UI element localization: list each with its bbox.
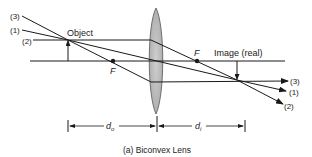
focal-point-left: [111, 59, 115, 63]
object-label: Object: [67, 28, 94, 38]
ray-1-label-left: (1): [10, 26, 20, 35]
ray-1-label-right: (1): [289, 88, 299, 97]
image-label: Image (real): [214, 48, 263, 58]
focal-point-right: [195, 59, 199, 63]
d-object-label: do: [106, 121, 115, 132]
biconvex-lens-diagram: Object Image (real) F F (3) (1) (2) (3) …: [0, 0, 312, 157]
ray-2-label-left: (2): [22, 37, 32, 46]
figure-caption: (a) Biconvex Lens: [123, 145, 191, 155]
ray-3-label-left: (3): [10, 12, 20, 21]
d-image-label: di: [195, 121, 202, 132]
ray-3-label-right: (3): [290, 77, 300, 86]
dimension-lines: [68, 116, 245, 132]
focal-right-label: F: [194, 48, 200, 58]
ray-2-label-right: (2): [284, 102, 294, 111]
focal-left-label: F: [110, 66, 116, 76]
